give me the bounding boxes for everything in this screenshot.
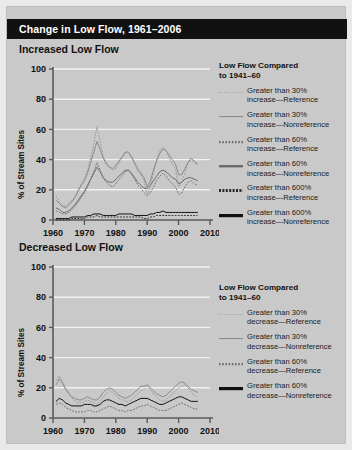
y-tick-label: 40	[36, 155, 46, 165]
y-axis-label-decreased: % of Stream Sites	[17, 328, 26, 397]
legend-item-label-line2: decrease—Nonreference	[247, 391, 332, 401]
legend-item-label-line1: Greater than 60%	[247, 135, 307, 144]
series-line	[56, 376, 197, 405]
y-tick-label: 100	[31, 262, 46, 272]
x-tick-label: 1960	[43, 228, 63, 237]
legend-line-sample-solid	[219, 164, 243, 168]
x-tick-label: 1970	[74, 426, 94, 435]
x-tick-label: 1980	[106, 228, 126, 237]
legend-item: Greater than 600%increase—Nonreference	[219, 208, 347, 227]
legend-line-sample-solid	[219, 337, 243, 340]
legend-item-label: Greater than 30%increase—Nonreference	[247, 110, 329, 129]
legend-swatch	[219, 110, 247, 118]
legend-item-label: Greater than 60%decrease—Reference	[247, 357, 321, 376]
legend-line-sample-dotted	[219, 313, 243, 316]
y-tick-label: 60	[36, 125, 46, 135]
legend-item-label-line2: increase—Nonreference	[247, 120, 329, 130]
legend-item-label-line1: Greater than 60%	[247, 159, 307, 168]
legend-item: Greater than 60%decrease—Reference	[219, 357, 347, 376]
y-tick-label: 0	[41, 215, 46, 225]
figure-title-bar: Change in Low Flow, 1961–2006	[7, 19, 347, 39]
legend-line-sample-dotted	[219, 91, 243, 94]
legend-item-label-line2: increase—Reference	[247, 144, 318, 154]
legend-item-label-line2: increase—Reference	[247, 95, 318, 105]
y-tick-label: 20	[36, 185, 46, 195]
legend-item-label-line2: decrease—Reference	[247, 366, 321, 376]
legend-title-line1: Low Flow Compared	[219, 283, 298, 292]
x-tick-label: 2000	[169, 228, 189, 237]
legend-title-decreased: Low Flow Compared to 1941–60	[219, 283, 347, 304]
panel-heading-decreased: Decreased Low Flow	[19, 241, 123, 253]
legend-swatch	[219, 381, 247, 391]
legend-item-label-line2: increase—Reference	[247, 193, 318, 203]
y-tick-label: 0	[41, 413, 46, 423]
legend-item: Greater than 60%increase—Reference	[219, 135, 347, 154]
y-tick-label: 40	[36, 353, 46, 363]
legend-title-line2: to 1941–60	[219, 293, 260, 302]
legend-item-label-line1: Greater than 60%	[247, 357, 307, 366]
y-tick-label: 60	[36, 323, 46, 333]
legend-item-label: Greater than 60%increase—Nonreference	[247, 159, 329, 178]
legend-item: Greater than 600%increase—Reference	[219, 183, 347, 202]
x-tick-label: 1970	[74, 228, 94, 237]
legend-line-sample-dotted	[219, 362, 243, 366]
y-tick-label: 80	[36, 94, 46, 104]
legend-item: Greater than 30%increase—Nonreference	[219, 110, 347, 129]
legend-line-sample-dotted	[219, 140, 243, 144]
y-axis-label-increased: % of Stream Sites	[17, 130, 26, 199]
series-line	[56, 379, 197, 400]
legend-item-label: Greater than 60%increase—Reference	[247, 135, 318, 154]
y-tick-label: 100	[31, 64, 46, 74]
panel-increased-low-flow: Increased Low Flow 020406080100196019701…	[7, 39, 347, 237]
series-line	[56, 141, 197, 207]
figure-title: Change in Low Flow, 1961–2006	[7, 23, 181, 35]
panel-decreased-low-flow: Decreased Low Flow 020406080100196019701…	[7, 237, 347, 442]
x-tick-label: 1980	[106, 426, 126, 435]
legend-item: Greater than 30%decrease—Reference	[219, 308, 347, 327]
legend-item-label-line2: decrease—Reference	[247, 317, 321, 327]
legend-item-label-line1: Greater than 30%	[247, 332, 307, 341]
legend-swatch	[219, 86, 247, 94]
legend-line-sample-dotted	[219, 188, 243, 193]
x-tick-label: 1990	[137, 228, 157, 237]
legend-item-label-line2: decrease—Nonreference	[247, 342, 332, 352]
x-tick-label: 2010	[200, 426, 219, 435]
legend-swatch	[219, 357, 247, 366]
series-line	[56, 397, 197, 406]
legend-item-label-line2: increase—Nonreference	[247, 169, 329, 179]
figure-panel: Change in Low Flow, 1961–2006 Increased …	[6, 6, 346, 444]
legend-decreased: Low Flow Compared to 1941–60 Greater tha…	[219, 283, 347, 405]
legend-item: Greater than 60%decrease—Nonreference	[219, 381, 347, 400]
legend-swatch	[219, 135, 247, 144]
legend-item-label-line1: Greater than 30%	[247, 308, 307, 317]
legend-item-label: Greater than 60%decrease—Nonreference	[247, 381, 332, 400]
legend-title-line1: Low Flow Compared	[219, 61, 298, 70]
legend-item: Greater than 30%increase—Reference	[219, 86, 347, 105]
legend-item-label: Greater than 30%decrease—Nonreference	[247, 332, 332, 351]
y-tick-label: 20	[36, 383, 46, 393]
legend-item-label-line1: Greater than 30%	[247, 86, 307, 95]
chart-increased-svg: 020406080100196019701980199020002010	[7, 59, 219, 237]
legend-swatch	[219, 332, 247, 340]
x-tick-label: 2010	[200, 228, 219, 237]
chart-increased-low-flow: 020406080100196019701980199020002010 % o…	[7, 59, 219, 237]
chart-decreased-svg: 020406080100196019701980199020002010	[7, 257, 219, 435]
legend-swatch	[219, 183, 247, 193]
legend-line-sample-solid	[219, 115, 243, 118]
legend-item-label-line1: Greater than 600%	[247, 208, 311, 217]
x-tick-label: 2000	[169, 426, 189, 435]
legend-title-line2: to 1941–60	[219, 71, 260, 80]
chart-decreased-low-flow: 020406080100196019701980199020002010 % o…	[7, 257, 219, 435]
legend-swatch	[219, 159, 247, 168]
legend-item-label: Greater than 600%increase—Nonreference	[247, 208, 329, 227]
x-tick-label: 1960	[43, 426, 63, 435]
y-tick-label: 80	[36, 292, 46, 302]
legend-title-increased: Low Flow Compared to 1941–60	[219, 61, 347, 82]
legend-item-label: Greater than 30%decrease—Reference	[247, 308, 321, 327]
legend-item: Greater than 60%increase—Nonreference	[219, 159, 347, 178]
legend-line-sample-solid	[219, 213, 243, 218]
legend-item-label: Greater than 600%increase—Reference	[247, 183, 318, 202]
legend-swatch	[219, 308, 247, 316]
legend-swatch	[219, 208, 247, 218]
legend-item: Greater than 30%decrease—Nonreference	[219, 332, 347, 351]
